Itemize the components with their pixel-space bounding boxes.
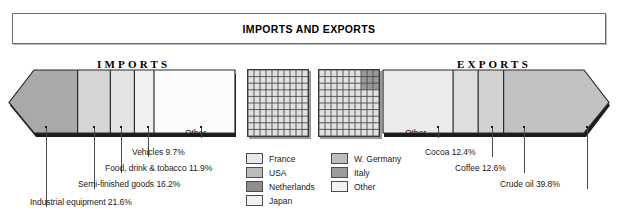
exports-segment-3-anchor-dot <box>586 126 588 128</box>
legend-swatch-icon <box>331 167 348 178</box>
imports-segment-3-anchor-dot <box>147 126 149 128</box>
exports-segment-0-label: Other <box>405 128 426 138</box>
legend-item-label: W. Germany <box>354 154 401 164</box>
exports-partners-grid <box>318 69 380 137</box>
legend-item[interactable]: Japan <box>246 194 315 207</box>
imports-segment-3-label: Vehicles 9.7% <box>132 147 185 157</box>
imports-partners-grid <box>247 69 309 137</box>
legend-swatch-icon <box>331 181 348 192</box>
legend-item-label: USA <box>269 168 286 178</box>
legend-swatch-icon <box>246 181 263 192</box>
imports-segment-4-label: Other <box>185 128 206 138</box>
imports-segment-1-anchor-dot <box>93 126 95 128</box>
legend-item-label: Netherlands <box>269 182 315 192</box>
legend-item-label: Japan <box>269 196 292 206</box>
legend-column-right: W. GermanyItalyOther <box>331 152 401 194</box>
legend-item[interactable]: Italy <box>331 166 401 179</box>
legend-column-left: FranceUSANetherlandsJapan <box>246 152 315 208</box>
title-banner: IMPORTS AND EXPORTS <box>12 13 606 44</box>
imports-segment-2-anchor-dot <box>120 126 122 128</box>
imports-segment-1-label: Semi-finished goods 16.2% <box>78 179 180 189</box>
page-title: IMPORTS AND EXPORTS <box>243 23 376 35</box>
exports-segment-2-leader-line <box>524 127 525 173</box>
exports-segment-1-label: Cocoa 12.4% <box>425 147 475 157</box>
imports-grid-svg <box>248 70 308 136</box>
legend-swatch-icon <box>331 153 348 164</box>
legend-item[interactable]: W. Germany <box>331 152 401 165</box>
legend-item-label: Italy <box>354 168 370 178</box>
exports-grid-svg <box>319 70 379 136</box>
imports-segment-0-label: Industrial equipment 21.6% <box>30 197 132 207</box>
legend-swatch-icon <box>246 153 263 164</box>
exports-segment-0-anchor-dot <box>437 126 439 128</box>
imports-segment-0-anchor-dot <box>45 126 47 128</box>
legend-swatch-icon <box>246 167 263 178</box>
legend-swatch-icon <box>246 195 263 206</box>
imports-segment-2-label: Food, drink & tobacco 11.9% <box>105 163 212 173</box>
exports-segment-3-label: Crude oil 39.8% <box>500 179 560 189</box>
legend-item[interactable]: USA <box>246 166 315 179</box>
chart-canvas: IMPORTS AND EXPORTS IMPORTS EXPORTS Fran… <box>0 0 618 220</box>
exports-segment-0-leader-line <box>438 127 439 138</box>
legend-item[interactable]: France <box>246 152 315 165</box>
legend-item-label: Other <box>354 182 375 192</box>
exports-segment-1-leader-line <box>492 127 493 157</box>
legend-item[interactable]: Other <box>331 180 401 193</box>
legend-item[interactable]: Netherlands <box>246 180 315 193</box>
exports-segment-3-leader-line <box>587 127 588 189</box>
legend-item-label: France <box>269 154 295 164</box>
exports-segment-1-anchor-dot <box>491 126 493 128</box>
imports-segment-0-leader-line <box>46 127 47 207</box>
exports-segment-2-label: Coffee 12.6% <box>455 163 506 173</box>
exports-segment-2-anchor-dot <box>523 126 525 128</box>
